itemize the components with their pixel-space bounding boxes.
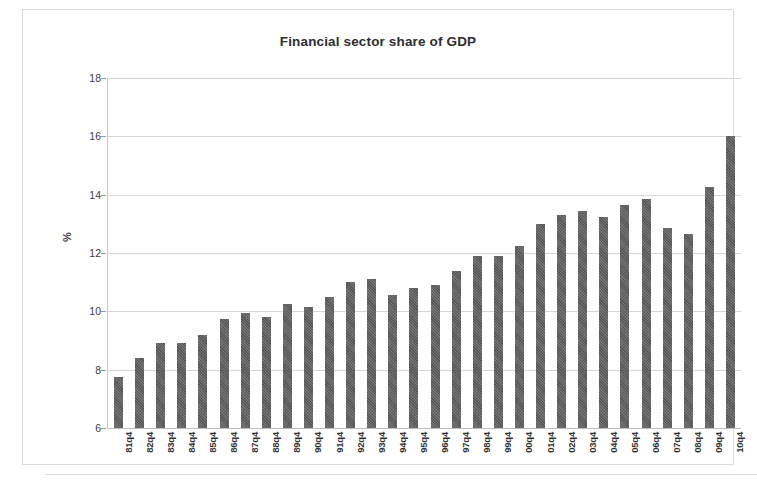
x-tick-label-96q4: 96q4 xyxy=(439,432,450,453)
bar xyxy=(431,285,440,428)
y-tick-label-18: 18 xyxy=(71,72,101,84)
x-tick-label-84q4: 84q4 xyxy=(186,432,197,453)
bar xyxy=(557,215,566,428)
bar xyxy=(515,246,524,428)
plot-area xyxy=(108,78,741,428)
x-tick-label-94q4: 94q4 xyxy=(397,432,408,453)
bar xyxy=(367,279,376,428)
x-tick-label-07q4: 07q4 xyxy=(671,432,682,453)
gridline-6 xyxy=(108,428,741,429)
bar xyxy=(283,304,292,428)
x-tick-label-87q4: 87q4 xyxy=(249,432,260,453)
chart-frame: Financial sector share of GDP % 68101214… xyxy=(22,9,734,465)
x-tick-label-97q4: 97q4 xyxy=(460,432,471,453)
bar xyxy=(409,288,418,428)
bar xyxy=(156,343,165,428)
x-tick-label-90q4: 90q4 xyxy=(312,432,323,453)
bar xyxy=(536,224,545,428)
bar xyxy=(578,211,587,428)
bar xyxy=(726,136,735,428)
y-tick-label-16: 16 xyxy=(71,130,101,142)
x-tick-label-08q4: 08q4 xyxy=(692,432,703,453)
bar xyxy=(114,377,123,428)
bar xyxy=(684,234,693,428)
x-tick-label-00q4: 00q4 xyxy=(523,432,534,453)
bar xyxy=(135,358,144,428)
x-tick-label-85q4: 85q4 xyxy=(207,432,218,453)
bar xyxy=(452,271,461,429)
bar xyxy=(220,319,229,428)
bar xyxy=(325,297,334,428)
bar xyxy=(388,295,397,428)
bar xyxy=(494,256,503,428)
bar xyxy=(473,256,482,428)
y-tick-label-14: 14 xyxy=(71,189,101,201)
x-tick-label-99q4: 99q4 xyxy=(502,432,513,453)
y-tick-mark-18 xyxy=(101,78,106,79)
x-axis-bottom-rule xyxy=(45,474,757,475)
x-tick-label-06q4: 06q4 xyxy=(650,432,661,453)
bar xyxy=(177,343,186,428)
y-tick-mark-6 xyxy=(101,428,106,429)
y-tick-mark-14 xyxy=(101,195,106,196)
x-tick-label-86q4: 86q4 xyxy=(228,432,239,453)
x-tick-label-88q4: 88q4 xyxy=(270,432,281,453)
x-tick-label-92q4: 92q4 xyxy=(355,432,366,453)
x-axis-tick-labels: 81q482q483q484q485q486q487q488q489q490q4… xyxy=(108,430,741,476)
bar xyxy=(262,317,271,428)
y-tick-mark-16 xyxy=(101,136,106,137)
x-tick-label-05q4: 05q4 xyxy=(629,432,640,453)
bar xyxy=(663,228,672,428)
x-tick-label-03q4: 03q4 xyxy=(587,432,598,453)
x-tick-label-89q4: 89q4 xyxy=(291,432,302,453)
y-tick-mark-10 xyxy=(101,311,106,312)
bar xyxy=(241,313,250,428)
x-tick-label-81q4: 81q4 xyxy=(123,432,134,453)
x-tick-label-91q4: 91q4 xyxy=(334,432,345,453)
chart-title: Financial sector share of GDP xyxy=(23,34,733,49)
bars-layer xyxy=(108,78,741,428)
bar xyxy=(642,199,651,428)
bar xyxy=(346,282,355,428)
y-tick-mark-12 xyxy=(101,253,106,254)
x-tick-label-09q4: 09q4 xyxy=(713,432,724,453)
x-tick-label-95q4: 95q4 xyxy=(418,432,429,453)
x-tick-label-82q4: 82q4 xyxy=(144,432,155,453)
y-tick-label-10: 10 xyxy=(71,305,101,317)
y-tick-label-12: 12 xyxy=(71,247,101,259)
bar xyxy=(198,335,207,428)
y-tick-label-8: 8 xyxy=(71,364,101,376)
x-tick-label-02q4: 02q4 xyxy=(566,432,577,453)
x-tick-label-98q4: 98q4 xyxy=(481,432,492,453)
x-tick-label-83q4: 83q4 xyxy=(165,432,176,453)
y-tick-label-6: 6 xyxy=(71,422,101,434)
x-tick-label-04q4: 04q4 xyxy=(608,432,619,453)
bar xyxy=(620,205,629,428)
bar xyxy=(705,187,714,428)
x-tick-label-01q4: 01q4 xyxy=(545,432,556,453)
y-axis-tick-labels: 681012141618 xyxy=(68,78,101,428)
bar xyxy=(599,217,608,428)
y-tick-mark-8 xyxy=(101,370,106,371)
x-tick-label-10q4: 10q4 xyxy=(734,432,745,453)
bar xyxy=(304,307,313,428)
x-tick-label-93q4: 93q4 xyxy=(376,432,387,453)
